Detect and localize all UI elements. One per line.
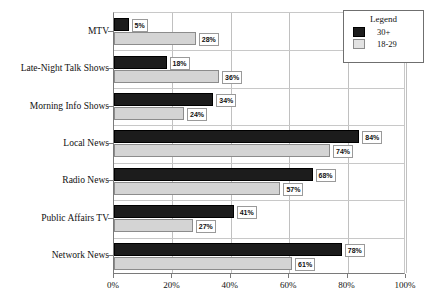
x-axis-tick-mark [347, 274, 348, 278]
bar-value-label: 57% [283, 183, 303, 196]
category-tick [108, 143, 113, 144]
category-label: Network News [52, 250, 109, 261]
legend-swatch-18-29-icon [353, 39, 365, 49]
bar-group: 34%24% [114, 88, 404, 125]
legend-title: Legend [344, 14, 423, 25]
legend-item-30plus: 30+ [353, 27, 423, 37]
category-label: Morning Info Shows [30, 100, 109, 111]
category-tick [108, 106, 113, 107]
category-tick [108, 255, 113, 256]
x-axis-tick-label: 20% [163, 280, 180, 290]
x-axis-tick-mark [113, 274, 114, 278]
bar-18-29 [114, 70, 219, 83]
bar-30plus [114, 243, 342, 256]
category-separator [114, 200, 404, 201]
x-axis-tick-label: 100% [395, 280, 416, 290]
category-tick [108, 218, 113, 219]
bar-value-label: 36% [222, 71, 242, 84]
category-separator [114, 238, 404, 239]
bar-group: 78%61% [114, 238, 404, 275]
x-axis-tick-mark [230, 274, 231, 278]
bar-30plus [114, 56, 167, 69]
bar-18-29 [114, 182, 280, 195]
legend: Legend 30+ 18-29 [343, 10, 424, 63]
category-label: Local News [63, 138, 109, 149]
bar-group: 68%57% [114, 163, 404, 200]
bar-30plus [114, 168, 313, 181]
bar-18-29 [114, 219, 193, 232]
x-axis-tick-mark [171, 274, 172, 278]
bar-value-label: 34% [216, 94, 236, 107]
category-separator [114, 125, 404, 126]
bar-18-29 [114, 107, 184, 120]
x-axis-tick-label: 60% [280, 280, 297, 290]
bar-value-label: 68% [316, 169, 336, 182]
bar-30plus [114, 130, 359, 143]
bar-18-29 [114, 257, 292, 270]
legend-swatch-30plus-icon [353, 27, 365, 37]
legend-item-18-29: 18-29 [353, 39, 423, 49]
category-label: Radio News [62, 175, 109, 186]
bar-value-label: 78% [345, 244, 365, 257]
category-tick [108, 31, 113, 32]
category-separator [114, 163, 404, 164]
category-tick [108, 180, 113, 181]
bar-30plus [114, 93, 213, 106]
legend-label-30plus: 30+ [377, 27, 390, 37]
bar-value-label: 61% [295, 258, 315, 271]
category-tick [108, 68, 113, 69]
category-separator [114, 88, 404, 89]
bar-value-label: 41% [237, 206, 257, 219]
bar-value-label: 28% [199, 33, 219, 46]
bar-value-label: 24% [187, 108, 207, 121]
category-label: MTV [88, 25, 109, 36]
x-axis-tick-label: 40% [222, 280, 239, 290]
category-label: Public Affairs TV [41, 212, 109, 223]
bar-18-29 [114, 32, 196, 45]
bar-30plus [114, 205, 234, 218]
x-axis-tick-label: 80% [338, 280, 355, 290]
bar-group: 41%27% [114, 200, 404, 237]
legend-label-18-29: 18-29 [377, 39, 397, 49]
bar-group: 84%74% [114, 125, 404, 162]
bar-value-label: 84% [362, 131, 382, 144]
bar-30plus [114, 18, 129, 31]
x-axis-tick-mark [405, 274, 406, 278]
category-label: Late-Night Talk Shows [21, 63, 109, 74]
bar-chart: 5%28%18%36%34%24%84%74%68%57%41%27%78%61… [0, 0, 436, 303]
bar-value-label: 74% [333, 145, 353, 158]
x-axis-tick-mark [288, 274, 289, 278]
bar-18-29 [114, 144, 330, 157]
bar-value-label: 27% [196, 220, 216, 233]
x-axis-tick-label: 0% [107, 280, 119, 290]
bar-value-label: 5% [132, 19, 148, 32]
bar-value-label: 18% [170, 57, 190, 70]
